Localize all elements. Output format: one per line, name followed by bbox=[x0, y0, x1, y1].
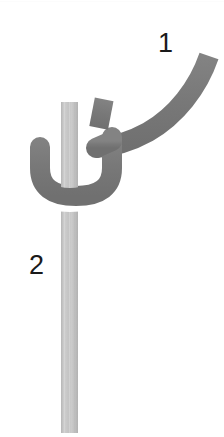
standing-rope-fiber-2 bbox=[69, 102, 70, 433]
knot-diagram-figure: 1 2 bbox=[0, 0, 224, 437]
standing-rope-fiber-1 bbox=[64, 102, 65, 433]
label-working-end: 1 bbox=[158, 30, 173, 57]
working-rope-stub-shape bbox=[89, 98, 113, 130]
label-standing-part: 2 bbox=[29, 252, 44, 279]
working-rope-join bbox=[96, 141, 112, 148]
standing-rope-fiber-3 bbox=[74, 102, 75, 433]
knot-illustration bbox=[0, 0, 224, 437]
working-rope-stub bbox=[89, 98, 113, 130]
standing-rope-group bbox=[61, 102, 78, 433]
